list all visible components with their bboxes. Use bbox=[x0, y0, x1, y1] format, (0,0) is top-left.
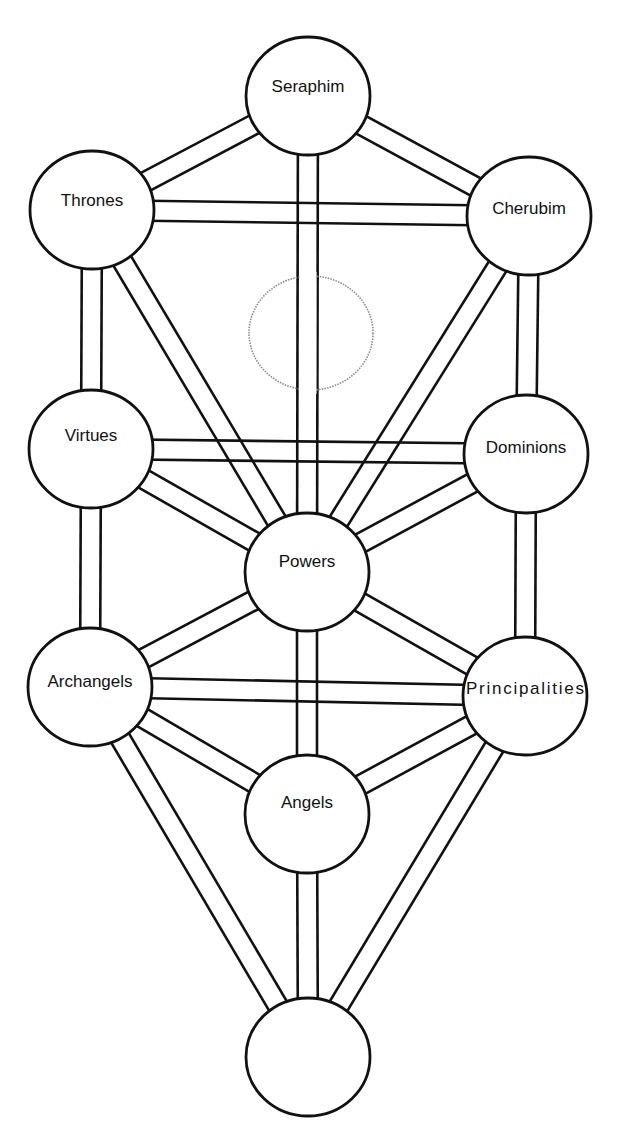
node-angels: Angels bbox=[245, 755, 369, 873]
node-circle bbox=[246, 998, 370, 1116]
node-label: Angels bbox=[281, 793, 333, 812]
node-virtues: Virtues bbox=[29, 390, 153, 508]
path-edge-line bbox=[297, 96, 298, 572]
tree-of-life-diagram: SeraphimThronesCherubimVirtuesDominionsP… bbox=[0, 0, 621, 1141]
node-circle bbox=[245, 513, 369, 631]
node-dominions: Dominions bbox=[464, 395, 588, 513]
node-label: Cherubim bbox=[492, 199, 566, 218]
node-circle bbox=[245, 755, 369, 873]
path-edge-line bbox=[317, 96, 318, 572]
node-label: Powers bbox=[279, 552, 336, 571]
node-label: Seraphim bbox=[272, 77, 345, 96]
node-seraphim: Seraphim bbox=[246, 37, 370, 155]
node-label: Archangels bbox=[47, 672, 132, 691]
node-label: Virtues bbox=[65, 426, 118, 445]
node-thrones: Thrones bbox=[30, 151, 154, 269]
node-label: Dominions bbox=[486, 438, 566, 457]
node-principalities: Principalities bbox=[463, 637, 587, 755]
central-bar-mask bbox=[300, 272, 317, 394]
node-archangels: Archangels bbox=[28, 628, 152, 746]
node-label: Thrones bbox=[61, 191, 123, 210]
node-circle bbox=[29, 390, 153, 508]
node-powers: Powers bbox=[245, 513, 369, 631]
node-label: Principalities bbox=[466, 679, 584, 698]
node-bottom bbox=[246, 998, 370, 1116]
node-cherubim: Cherubim bbox=[467, 157, 591, 275]
